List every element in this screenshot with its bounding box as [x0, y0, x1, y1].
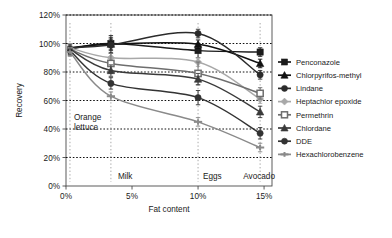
ytick-label-60: 60% [44, 97, 60, 106]
xtick-label-5: 5% [126, 192, 138, 201]
ytick-label-100: 100% [39, 40, 60, 49]
series-hexachlorobenzene [67, 48, 264, 152]
xtick-label-0: 0% [60, 192, 72, 201]
recovery-vs-fat-content-chart: 0%20%40%60%80%100%120%0%5%10%15%Fat cont… [0, 0, 392, 238]
legend-label: Permethrin [296, 111, 333, 120]
marker-square [282, 59, 288, 65]
ytick-label-0: 0% [48, 182, 60, 191]
marker-square-open [282, 112, 288, 118]
ytick-label-40: 40% [44, 125, 60, 134]
legend-item-chlordane[interactable] [278, 124, 291, 131]
xtick-label-10: 10% [190, 192, 206, 201]
marker-square [257, 49, 263, 55]
legend-label: Heptachlor epoxide [296, 97, 361, 106]
annotation-milk: Milk [118, 172, 133, 181]
marker-circle [257, 72, 263, 78]
legend-label: Penconazole [296, 58, 340, 67]
legend-label: Hexachlorobenzene [296, 150, 364, 159]
legend-item-hexachlorobenzene[interactable] [278, 152, 291, 157]
marker-triangle [256, 108, 263, 115]
y-axis-title: Recovery [15, 82, 24, 117]
xtick-label-15: 15% [256, 192, 272, 201]
legend-label: DDE [296, 137, 312, 146]
marker-circle [195, 95, 201, 101]
ytick-label-20: 20% [44, 154, 60, 163]
legend-item-lindane[interactable] [278, 85, 291, 91]
annotation-orange-line2: lettuce [74, 123, 99, 132]
legend-item-dde[interactable] [278, 138, 291, 144]
marker-circle [108, 80, 114, 86]
marker-circle [195, 30, 201, 36]
marker-circle [257, 130, 263, 136]
marker-circle [108, 42, 114, 48]
legend-label: Lindane [296, 84, 323, 93]
marker-circle [282, 85, 288, 91]
ytick-label-80: 80% [44, 68, 60, 77]
ytick-label-120: 120% [39, 11, 60, 20]
chart-root: 0%20%40%60%80%100%120%0%5%10%15%Fat cont… [0, 0, 392, 238]
legend-item-chlorpyrifos-methyl[interactable] [278, 72, 291, 79]
marker-plus [281, 152, 289, 157]
marker-circle [282, 138, 288, 144]
annotation-orange-line1: Orange [74, 113, 102, 122]
x-axis-title: Fat content [149, 205, 191, 214]
annotation-eggs: Eggs [203, 172, 222, 181]
annotation-avocado: Avocado [243, 172, 275, 181]
legend-label: Chlordane [296, 124, 331, 133]
marker-square-open [257, 90, 263, 96]
marker-diamond [281, 98, 288, 105]
legend-item-penconazole[interactable] [278, 59, 291, 65]
legend-label: Chlorpyrifos-methyl [296, 71, 362, 80]
legend-item-heptachlor-epoxide[interactable] [278, 98, 291, 105]
legend-item-permethrin[interactable] [278, 112, 291, 118]
